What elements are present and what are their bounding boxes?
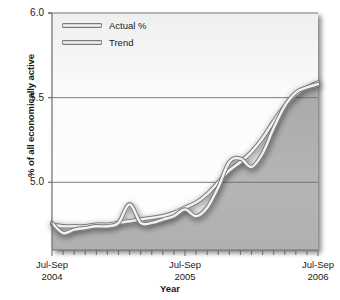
legend-label: Trend — [109, 37, 133, 48]
y-axis-tick-label: 5.0 — [10, 176, 44, 187]
legend-item[interactable]: Trend — [62, 37, 133, 48]
x-axis-tick-label: Jul-Sep2006 — [283, 259, 340, 283]
x-axis-tick-label: Jul-Sep2004 — [17, 259, 87, 283]
legend-swatch-line-icon — [62, 37, 102, 48]
x-axis-tick-label-year: 2004 — [17, 271, 87, 283]
legend-swatch-line-icon — [62, 20, 102, 31]
x-axis-tick-label-period: Jul-Sep — [17, 259, 87, 271]
x-axis-tick-label-year: 2006 — [283, 271, 340, 283]
legend-item[interactable]: Actual % — [62, 20, 147, 31]
x-axis-tick-label-period: Jul-Sep — [283, 259, 340, 271]
x-axis-title: Year — [0, 283, 340, 294]
y-axis-tick-label: 5.5 — [10, 92, 44, 103]
x-axis-tick-label: Jul-Sep2005 — [150, 259, 220, 283]
x-axis-tick-label-period: Jul-Sep — [150, 259, 220, 271]
x-axis-tick-label-year: 2005 — [150, 271, 220, 283]
chart-container: % of all economically active Year 5.05.5… — [0, 0, 340, 300]
y-axis-tick-label: 6.0 — [10, 7, 44, 18]
legend-label: Actual % — [109, 20, 147, 31]
chart-plot-area — [0, 0, 340, 300]
